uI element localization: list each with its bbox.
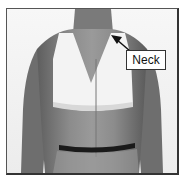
photo-frame xyxy=(6,8,179,175)
torso-photo xyxy=(7,9,177,173)
neck-callout-label: Neck xyxy=(126,50,166,70)
